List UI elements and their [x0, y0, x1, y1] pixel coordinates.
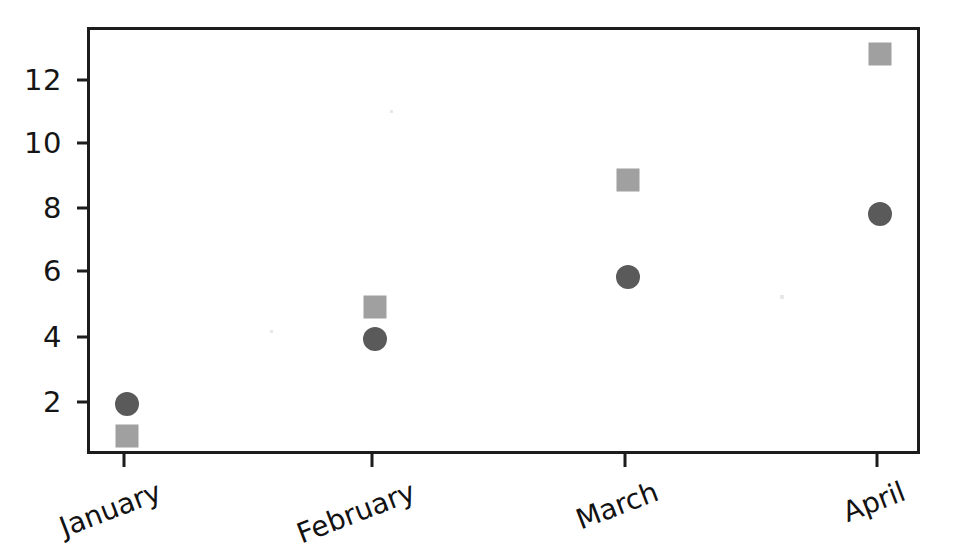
- data-point-february-circle: [363, 327, 387, 351]
- x-axis-tick-label-january: January: [55, 475, 166, 544]
- data-point-april-circle: [868, 202, 892, 226]
- data-point-april-square: [869, 43, 892, 66]
- data-point-january-circle: [115, 392, 139, 416]
- y-axis-tick-label-12: 12: [24, 63, 62, 97]
- y-axis-tick-label-2: 2: [43, 385, 62, 419]
- plot-area: [87, 27, 920, 454]
- data-points-layer: [90, 30, 917, 451]
- data-point-february-square: [364, 295, 387, 318]
- x-axis-tick-mark-march: [624, 454, 627, 467]
- data-point-march-circle: [616, 265, 640, 289]
- x-axis-tick-label-march: March: [571, 475, 663, 536]
- y-axis-tick-label-4: 4: [43, 320, 62, 354]
- y-axis-tick-label-8: 8: [43, 191, 62, 225]
- y-axis-tick-label-10: 10: [24, 126, 62, 160]
- y-axis-tick-labels: 2 4 6 8 10 12: [0, 0, 62, 554]
- x-axis-tick-mark-january: [123, 454, 126, 467]
- y-axis-tick-label-6: 6: [43, 254, 62, 288]
- data-point-march-square: [617, 169, 640, 192]
- scatter-chart-figure: 2 4 6 8 10 12 January February March Apr…: [0, 0, 958, 554]
- data-point-january-square: [116, 424, 139, 447]
- x-axis-tick-mark-february: [371, 454, 374, 467]
- x-axis-tick-mark-april: [876, 454, 879, 467]
- x-axis-tick-label-february: February: [292, 475, 420, 550]
- x-axis-tick-label-april: April: [838, 475, 910, 529]
